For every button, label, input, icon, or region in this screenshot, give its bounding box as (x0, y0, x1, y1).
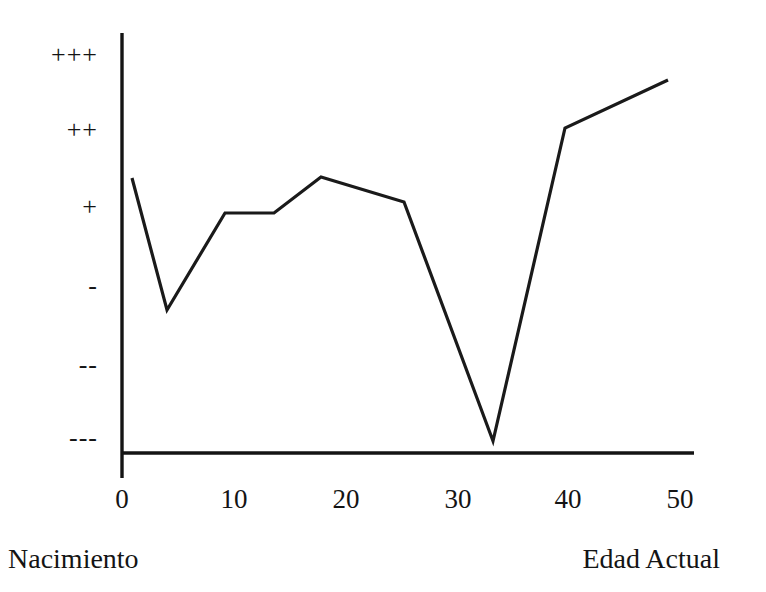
x-tick-label-10: 10 (199, 486, 269, 513)
x-tick-label-20: 20 (311, 486, 381, 513)
y-tick-label-minus-minus-minus: --- (38, 425, 98, 451)
x-axis-caption-right: Edad Actual (582, 545, 720, 573)
y-tick-label-plus-plus-plus: +++ (38, 42, 98, 68)
x-tick-label-30: 30 (423, 486, 493, 513)
x-tick-label-50: 50 (645, 486, 715, 513)
x-tick-label-0: 0 (87, 486, 157, 513)
y-tick-label-plus-plus: ++ (38, 117, 98, 143)
chart-figure: +++ ++ + - -- --- 0 10 20 30 40 50 Nacim… (0, 0, 766, 592)
x-axis-caption-left: Nacimiento (8, 545, 139, 573)
data-series-line (132, 80, 668, 441)
y-tick-label-minus-minus: -- (38, 352, 98, 378)
x-tick-label-40: 40 (533, 486, 603, 513)
y-tick-label-minus: - (38, 273, 98, 299)
y-tick-label-plus: + (38, 194, 98, 220)
